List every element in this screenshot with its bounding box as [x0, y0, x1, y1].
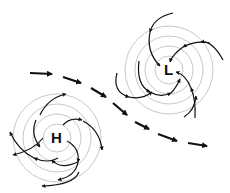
low-pressure-label: L [164, 62, 173, 77]
jet-stream-arrow [135, 122, 149, 129]
diagram-canvas [0, 0, 230, 193]
jet-stream-arrow [188, 143, 207, 146]
high-pressure-label: H [51, 130, 62, 145]
jet-stream-arrow [91, 88, 106, 97]
jet-stream-arrow [113, 103, 127, 115]
pressure-system-diagram: H L [0, 0, 230, 193]
jet-stream-arrow [30, 73, 52, 74]
jet-stream-arrow [158, 134, 177, 141]
jet-stream-arrow [63, 77, 81, 83]
